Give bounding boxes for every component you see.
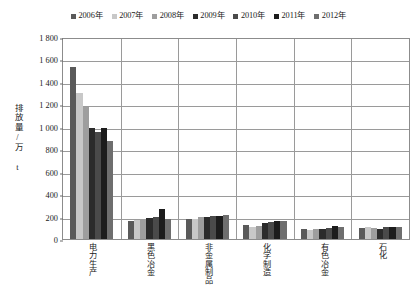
x-axis-label-cell: 非金属制品 bbox=[178, 243, 236, 301]
legend-label: 2007年 bbox=[119, 12, 143, 20]
x-axis-label-cell: 黑色冶金 bbox=[120, 243, 178, 301]
y-tick-label: 1 800 bbox=[39, 35, 58, 43]
x-axis-label-cell: 石化 bbox=[352, 243, 410, 301]
bar-group bbox=[121, 39, 179, 239]
legend-label: 2010年 bbox=[241, 12, 265, 20]
bar-group bbox=[178, 39, 236, 239]
y-tick-label: 1 400 bbox=[39, 80, 58, 88]
legend-item: 2009年 bbox=[193, 12, 225, 20]
x-axis-label: 电力生产 bbox=[87, 243, 95, 276]
y-tick-label: 0 bbox=[54, 237, 58, 245]
bar bbox=[107, 141, 113, 239]
x-axis-label-cell: 化学制造 bbox=[236, 243, 294, 301]
plot-area: 1 8001 6001 4001 2001 0008006004002000 bbox=[62, 38, 410, 240]
y-tick-label: 1 000 bbox=[39, 125, 58, 133]
x-axis-label: 化学制造 bbox=[261, 243, 269, 276]
legend-swatch-icon bbox=[314, 14, 319, 19]
legend-item: 2007年 bbox=[112, 12, 144, 20]
bar bbox=[165, 219, 171, 239]
y-tick-label: 600 bbox=[46, 170, 58, 178]
legend-label: 2009年 bbox=[200, 12, 224, 20]
legend-label: 2011年 bbox=[282, 12, 306, 20]
y-axis-title: 排放量/万 t bbox=[13, 104, 22, 173]
y-tick-label: 1 600 bbox=[39, 57, 58, 65]
legend-swatch-icon bbox=[152, 14, 157, 19]
bar bbox=[223, 215, 229, 239]
bar bbox=[338, 227, 344, 239]
legend-item: 2008年 bbox=[152, 12, 184, 20]
legend-label: 2008年 bbox=[160, 12, 184, 20]
legend-swatch-icon bbox=[71, 14, 76, 19]
legend-swatch-icon bbox=[233, 14, 238, 19]
bar bbox=[396, 227, 402, 239]
bar-group bbox=[236, 39, 294, 239]
legend-item: 2011年 bbox=[274, 12, 305, 20]
legend-swatch-icon bbox=[112, 14, 117, 19]
y-tick-mark bbox=[60, 241, 64, 242]
y-tick-label: 200 bbox=[46, 214, 58, 222]
legend-item: 2006年 bbox=[71, 12, 103, 20]
plot-wrapper: 1 8001 6001 4001 2001 0008006004002000 bbox=[62, 38, 410, 240]
y-tick-label: 1 200 bbox=[39, 102, 58, 110]
bar bbox=[280, 221, 286, 239]
x-axis-label-cell: 有色冶金 bbox=[294, 243, 352, 301]
legend-swatch-icon bbox=[274, 14, 279, 19]
x-axis-labels: 电力生产黑色冶金非金属制品化学制造有色冶金石化 bbox=[62, 243, 410, 301]
bar-group bbox=[351, 39, 409, 239]
legend-label: 2006年 bbox=[79, 12, 103, 20]
y-tick-label: 400 bbox=[46, 192, 58, 200]
legend-item: 2010年 bbox=[233, 12, 265, 20]
x-axis-label-cell: 电力生产 bbox=[62, 243, 120, 301]
bar-chart: 2006年2007年2008年2009年2010年2011年2012年 排放量/… bbox=[0, 0, 417, 301]
x-axis-label: 非金属制品 bbox=[203, 243, 211, 285]
chart-legend: 2006年2007年2008年2009年2010年2011年2012年 bbox=[0, 12, 417, 20]
legend-label: 2012年 bbox=[322, 12, 346, 20]
bar-group bbox=[294, 39, 352, 239]
x-axis-label: 黑色冶金 bbox=[145, 243, 153, 276]
legend-swatch-icon bbox=[193, 14, 198, 19]
x-axis-label: 有色冶金 bbox=[319, 243, 327, 276]
y-tick-label: 800 bbox=[46, 147, 58, 155]
x-axis-label: 石化 bbox=[377, 243, 385, 260]
bar-groups bbox=[63, 39, 409, 239]
bar-group bbox=[63, 39, 121, 239]
legend-item: 2012年 bbox=[314, 12, 346, 20]
